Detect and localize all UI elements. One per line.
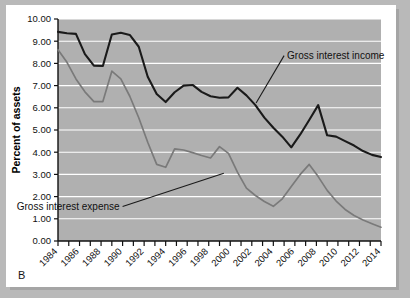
y-axis-tick-label: 7.00 (33, 80, 52, 91)
x-axis-tick-label: 1986 (58, 246, 81, 269)
y-axis-tick-label: 5.00 (33, 124, 52, 135)
y-axis-tick-label: 6.00 (33, 102, 52, 113)
y-axis-title: Percent of assets (10, 86, 22, 173)
y-axis-tick-label: 4.00 (33, 147, 52, 158)
y-axis-tick-label: 8.00 (33, 58, 52, 69)
x-axis-tick-label: 2000 (209, 246, 232, 269)
x-axis-tick-label: 1998 (187, 246, 210, 269)
y-axis-tick-label: 3.00 (33, 169, 52, 180)
x-axis-tick-label: 2006 (274, 246, 297, 269)
y-axis-tick-label: 9.00 (33, 36, 52, 47)
x-axis-tick-label: 2004 (252, 246, 275, 269)
x-axis-tick-label: 2012 (338, 246, 361, 269)
x-axis-tick-label: 2002 (230, 246, 253, 269)
y-axis-tick-label: 0.00 (33, 235, 52, 246)
x-axis-tick-label: 1990 (101, 246, 124, 269)
annotation-label-gross-interest-expense: Gross interest expense (17, 201, 120, 212)
x-axis-tick-label: 2008 (295, 246, 318, 269)
panel-label: B (18, 269, 26, 281)
annotation-label-gross-interest-income: Gross interest income (287, 50, 385, 61)
y-axis-tick-label: 10.00 (27, 13, 51, 24)
x-axis-tick-label: 2014 (360, 246, 383, 269)
x-axis-tick-label: 1992 (123, 246, 146, 269)
x-axis-tick-label: 1996 (166, 246, 189, 269)
x-axis-tick-label: 1988 (80, 246, 103, 269)
interest-income-expense-line-chart: 0.001.002.003.004.005.006.007.008.009.00… (6, 5, 396, 287)
y-axis-tick-label: 1.00 (33, 213, 52, 224)
figure-panel: 0.001.002.003.004.005.006.007.008.009.00… (6, 5, 396, 287)
x-axis-tick-label: 1984 (37, 246, 60, 269)
x-axis-tick-label: 1994 (144, 246, 167, 269)
x-axis-tick-label: 2010 (317, 246, 340, 269)
